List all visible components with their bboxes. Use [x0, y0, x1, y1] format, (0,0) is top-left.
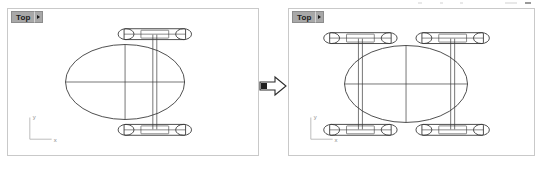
axis-gizmo-x-label: x — [335, 137, 338, 143]
viewport-title-tab-before[interactable]: Top — [11, 11, 43, 23]
wheel-assembly-bottom-right — [416, 124, 489, 135]
viewport-title-tab-after[interactable]: Top — [292, 11, 324, 23]
axis-gizmo-y-label: y — [33, 115, 36, 121]
wheel-assembly-top — [118, 29, 191, 40]
viewport-before-canvas[interactable]: y x — [8, 9, 258, 155]
scan-artifact — [418, 2, 422, 4]
scan-artifact — [525, 2, 531, 4]
scan-artifact — [460, 2, 463, 4]
arrow-tail-fill — [261, 83, 267, 89]
viewport-after[interactable]: y x Top — [288, 8, 535, 156]
wheel-assembly-top-left — [324, 33, 397, 44]
axis-gizmo-x-label: x — [54, 137, 57, 143]
wheel-assembly-bottom-left — [324, 124, 397, 135]
viewport-title-label: Top — [11, 11, 34, 23]
viewport-after-canvas[interactable]: y x — [289, 9, 534, 155]
screenshot-stage: y x Top — [0, 0, 545, 170]
viewport-before[interactable]: y x Top — [7, 8, 259, 156]
scan-artifact — [440, 2, 443, 4]
chevron-right-icon[interactable] — [34, 11, 43, 23]
chevron-right-icon[interactable] — [315, 11, 324, 23]
scan-artifact — [505, 2, 517, 4]
wheel-assembly-top-right — [416, 33, 489, 44]
right-arrow-icon — [259, 74, 288, 98]
viewport-title-label: Top — [292, 11, 315, 23]
axis-gizmo — [30, 118, 52, 140]
wheel-assembly-bottom — [118, 124, 191, 135]
axis-gizmo-y-label: y — [314, 115, 317, 121]
